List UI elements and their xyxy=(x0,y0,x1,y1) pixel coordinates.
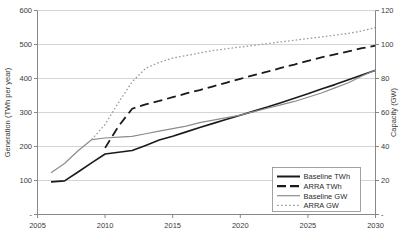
y-tick-label-right: 120 xyxy=(381,6,394,15)
y-tick-label-left: 200 xyxy=(19,142,32,151)
legend-label-baseline-twh: Baseline TWh xyxy=(304,172,351,181)
y-tick-label-left: 300 xyxy=(19,108,32,117)
chart-legend[interactable]: Baseline TWhARRA TWhBaseline GWARRA GW xyxy=(273,168,361,212)
y2-axis-title: Capacity (GW) xyxy=(389,87,398,137)
y-tick-label-right: 80 xyxy=(381,74,389,83)
x-tick-label: 2025 xyxy=(300,221,317,230)
y-tick-label-left: 400 xyxy=(19,74,32,83)
x-tick-label: 2010 xyxy=(97,221,114,230)
y-tick-label-left: 100 xyxy=(19,176,32,185)
y-tick-label-left: 600 xyxy=(19,6,32,15)
y-tick-label-right: 100 xyxy=(381,40,394,49)
y-tick-label-right: 20 xyxy=(381,176,389,185)
x-tick-label: 2020 xyxy=(232,221,249,230)
y-axis-title: Generation (TWh per year) xyxy=(3,67,12,157)
x-tick-label: 2030 xyxy=(367,221,384,230)
y-tick-label-right: 40 xyxy=(381,142,389,151)
line-chart: -100200300400500600-20406080100120200520… xyxy=(0,0,403,242)
chart-container: -100200300400500600-20406080100120200520… xyxy=(0,0,403,242)
x-tick-label: 2015 xyxy=(164,221,181,230)
legend-label-arra-twh: ARRA TWh xyxy=(304,182,342,191)
x-tick-label: 2005 xyxy=(29,221,46,230)
legend-label-baseline-gw: Baseline GW xyxy=(304,192,349,201)
y-tick-label-left: 500 xyxy=(19,40,32,49)
legend-label-arra-gw: ARRA GW xyxy=(304,201,340,210)
